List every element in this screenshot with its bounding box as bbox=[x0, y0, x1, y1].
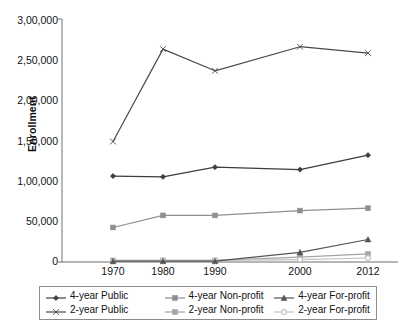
marker-square bbox=[298, 208, 303, 213]
marker-circle bbox=[366, 256, 371, 261]
marker-square bbox=[172, 296, 177, 301]
legend-item-label: 2-year For-profit bbox=[298, 305, 370, 315]
legend-item-label: 4-year For-profit bbox=[298, 291, 370, 301]
marker-square bbox=[172, 310, 177, 315]
marker-triangle bbox=[365, 237, 371, 243]
series-line bbox=[113, 208, 368, 227]
series-line bbox=[113, 155, 368, 177]
series-4-year-non-profit bbox=[111, 206, 371, 230]
enrollment-line-chart: Enrollment 3,00,0002,50,0002,00,0001,50,… bbox=[0, 0, 420, 328]
series-4-year-public bbox=[110, 153, 370, 180]
marker-diamond bbox=[110, 173, 115, 178]
legend-marker-square-icon bbox=[164, 290, 186, 302]
marker-x bbox=[110, 139, 116, 145]
marker-diamond bbox=[53, 295, 58, 300]
series-line bbox=[113, 240, 368, 262]
marker-square bbox=[213, 213, 218, 218]
legend-marker-triangle-icon bbox=[273, 290, 295, 302]
marker-x bbox=[160, 46, 166, 52]
legend-item-label: 4-year Public bbox=[70, 291, 128, 301]
marker-diamond bbox=[297, 167, 302, 172]
legend-marker-square-icon bbox=[164, 304, 186, 316]
marker-diamond bbox=[160, 174, 165, 179]
legend-item-label: 4-year Non-profit bbox=[189, 291, 264, 301]
marker-square bbox=[111, 225, 116, 230]
legend-item[interactable]: 4-year Public bbox=[45, 289, 164, 303]
legend-item[interactable]: 2-year Non-profit bbox=[164, 303, 274, 317]
legend-item[interactable]: 4-year For-profit bbox=[273, 289, 372, 303]
legend-marker-diamond-icon bbox=[45, 290, 67, 302]
marker-square bbox=[161, 213, 166, 218]
legend-row-top: 4-year Public4-year Non-profit4-year For… bbox=[45, 289, 372, 303]
legend-item-label: 2-year Public bbox=[70, 305, 128, 315]
series-2-year-public bbox=[110, 44, 371, 145]
chart-legend: 4-year Public4-year Non-profit4-year For… bbox=[39, 286, 377, 320]
legend-row-bottom: 2-year Public2-year Non-profit2-year For… bbox=[45, 303, 372, 317]
marker-diamond bbox=[212, 165, 217, 170]
legend-item[interactable]: 2-year For-profit bbox=[273, 303, 372, 317]
marker-circle bbox=[282, 310, 287, 315]
legend-marker-circle-icon bbox=[273, 304, 295, 316]
marker-circle bbox=[298, 257, 303, 262]
legend-item-label: 2-year Non-profit bbox=[189, 305, 264, 315]
legend-item[interactable]: 4-year Non-profit bbox=[164, 289, 274, 303]
legend-item[interactable]: 2-year Public bbox=[45, 303, 164, 317]
plot-area bbox=[0, 0, 420, 328]
marker-diamond bbox=[365, 153, 370, 158]
series-line bbox=[113, 47, 368, 142]
marker-square bbox=[366, 206, 371, 211]
legend-marker-x-icon bbox=[45, 304, 67, 316]
